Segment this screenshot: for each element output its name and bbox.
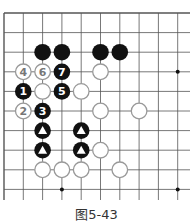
white-stone	[73, 162, 89, 178]
white-stone	[35, 162, 51, 178]
white-stone	[112, 162, 128, 178]
move-number: 4	[19, 66, 27, 79]
black-stone	[54, 44, 71, 61]
move-number: 3	[39, 105, 47, 118]
white-stone	[54, 162, 70, 178]
hoshi-point	[176, 70, 180, 74]
black-stone	[112, 44, 129, 61]
white-stone	[73, 84, 89, 100]
black-stone	[34, 44, 51, 61]
white-stone	[93, 103, 109, 119]
move-number: 1	[19, 85, 27, 98]
move-number: 5	[58, 85, 66, 98]
black-stone	[92, 44, 109, 61]
move-number: 2	[19, 105, 27, 118]
hoshi-point	[60, 187, 64, 191]
white-stone	[93, 142, 109, 158]
move-number: 6	[39, 66, 47, 79]
white-stone	[35, 84, 51, 100]
hoshi-point	[176, 187, 180, 191]
white-stone	[131, 103, 147, 119]
go-board: 4671523	[0, 0, 193, 204]
white-stone	[93, 64, 109, 80]
figure-caption: 图5-43	[0, 204, 193, 223]
move-number: 7	[58, 66, 66, 79]
